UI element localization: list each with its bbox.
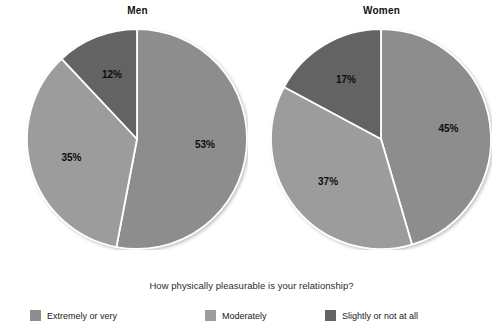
pie-panel-men: Men 53%35%12% bbox=[12, 0, 263, 270]
legend-label-slightly-or-not-at-all: Slightly or not at all bbox=[342, 311, 418, 321]
pie-svg-men: 53%35%12% bbox=[26, 28, 248, 250]
pie-title-men: Men bbox=[12, 5, 263, 16]
legend-label-extremely-or-very: Extremely or very bbox=[47, 311, 117, 321]
chart-legend: Extremely or very Moderately Slightly or… bbox=[0, 310, 503, 321]
pie-slice-label: 37% bbox=[318, 176, 338, 187]
pie-slice-label: 12% bbox=[102, 69, 122, 80]
pie-chart-women: 45%37%17% bbox=[270, 28, 492, 250]
pie-slice-label: 45% bbox=[439, 123, 459, 134]
pie-slices-women bbox=[271, 29, 491, 249]
legend-swatch-extremely-or-very bbox=[30, 310, 41, 321]
legend-swatch-moderately bbox=[205, 310, 216, 321]
legend-swatch-slightly-or-not-at-all bbox=[325, 310, 336, 321]
pie-slice-label: 53% bbox=[195, 139, 215, 150]
pie-svg-women: 45%37%17% bbox=[270, 28, 492, 250]
pie-title-women: Women bbox=[256, 5, 503, 16]
legend-item-moderately: Moderately bbox=[205, 310, 325, 321]
legend-item-extremely-or-very: Extremely or very bbox=[18, 310, 205, 321]
legend-item-slightly-or-not-at-all: Slightly or not at all bbox=[325, 310, 485, 321]
pie-chart-men: 53%35%12% bbox=[26, 28, 248, 250]
legend-label-moderately: Moderately bbox=[222, 311, 267, 321]
chart-caption: How physically pleasurable is your relat… bbox=[0, 280, 503, 291]
pie-slice-label: 35% bbox=[62, 152, 82, 163]
chart-figure: Men 53%35%12% Women bbox=[0, 0, 503, 332]
pie-slice-label: 17% bbox=[336, 74, 356, 85]
pie-panel-women: Women 45%37%17% bbox=[256, 0, 503, 270]
